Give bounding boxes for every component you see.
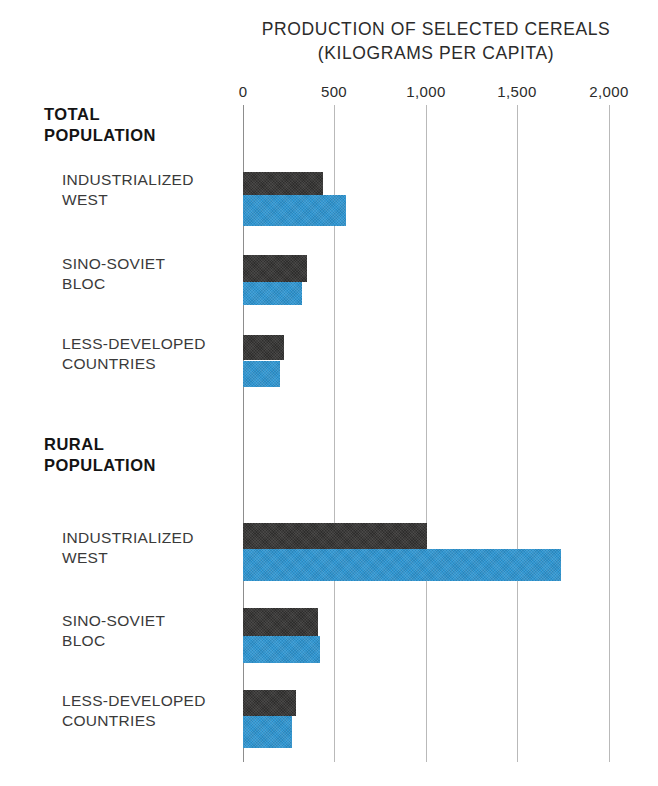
gridline-1000: [426, 105, 427, 762]
category-label-rural-sino-soviet-bloc: SINO-SOVIET BLOC: [62, 611, 165, 651]
bar-rural-industrialized-west-blue: [243, 549, 561, 581]
tick-label-1500: 1,500: [497, 83, 537, 100]
bar-total-less-developed-countries-dark: [243, 335, 284, 360]
chart-title-block: PRODUCTION OF SELECTED CEREALS (KILOGRAM…: [236, 18, 636, 65]
group-heading-total-population: TOTAL POPULATION: [44, 104, 156, 146]
category-label-total-industrialized-west: INDUSTRIALIZED WEST: [62, 170, 194, 210]
chart-subtitle: (KILOGRAMS PER CAPITA): [236, 42, 636, 66]
plot-area: 0 500 1,000 1,500 2,000: [243, 105, 613, 762]
cereal-production-chart: PRODUCTION OF SELECTED CEREALS (KILOGRAM…: [0, 0, 658, 786]
chart-title: PRODUCTION OF SELECTED CEREALS: [236, 18, 636, 42]
bar-rural-less-developed-countries-dark: [243, 690, 296, 716]
gridline-2000: [609, 105, 610, 762]
tick-label-2000: 2,000: [589, 83, 629, 100]
bar-total-industrialized-west-blue: [243, 195, 346, 226]
gridline-1500: [517, 105, 518, 762]
bar-rural-sino-soviet-bloc-blue: [243, 636, 320, 663]
bar-total-sino-soviet-bloc-dark: [243, 255, 307, 282]
bar-rural-industrialized-west-dark: [243, 523, 427, 549]
bar-total-less-developed-countries-blue: [243, 361, 280, 387]
category-label-rural-less-developed-countries: LESS-DEVELOPED COUNTRIES: [62, 691, 206, 731]
tick-label-500: 500: [321, 83, 347, 100]
bar-total-industrialized-west-dark: [243, 172, 323, 195]
category-label-total-sino-soviet-bloc: SINO-SOVIET BLOC: [62, 254, 165, 294]
tick-label-0: 0: [239, 83, 248, 100]
category-label-rural-industrialized-west: INDUSTRIALIZED WEST: [62, 528, 194, 568]
group-heading-rural-population: RURAL POPULATION: [44, 434, 156, 476]
bar-total-sino-soviet-bloc-blue: [243, 282, 302, 305]
bar-rural-sino-soviet-bloc-dark: [243, 608, 318, 636]
bar-rural-less-developed-countries-blue: [243, 716, 292, 748]
category-label-total-less-developed-countries: LESS-DEVELOPED COUNTRIES: [62, 334, 206, 374]
tick-label-1000: 1,000: [406, 83, 446, 100]
